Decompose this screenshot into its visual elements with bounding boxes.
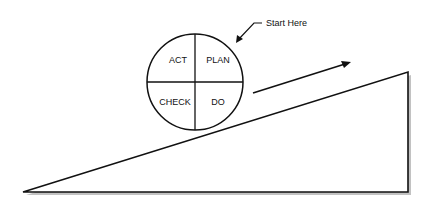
start-here-label: Start Here (266, 18, 307, 28)
direction-arrow-icon (253, 61, 351, 93)
quadrant-act: ACT (169, 55, 188, 65)
pdca-wheel: ACT PLAN CHECK DO (147, 34, 243, 130)
pdca-diagram: ACT PLAN CHECK DO Start Here (0, 0, 426, 205)
quadrant-do: DO (211, 97, 225, 107)
quadrant-check: CHECK (159, 97, 191, 107)
callout-pointer-icon (236, 23, 262, 43)
quadrant-plan: PLAN (206, 55, 230, 65)
